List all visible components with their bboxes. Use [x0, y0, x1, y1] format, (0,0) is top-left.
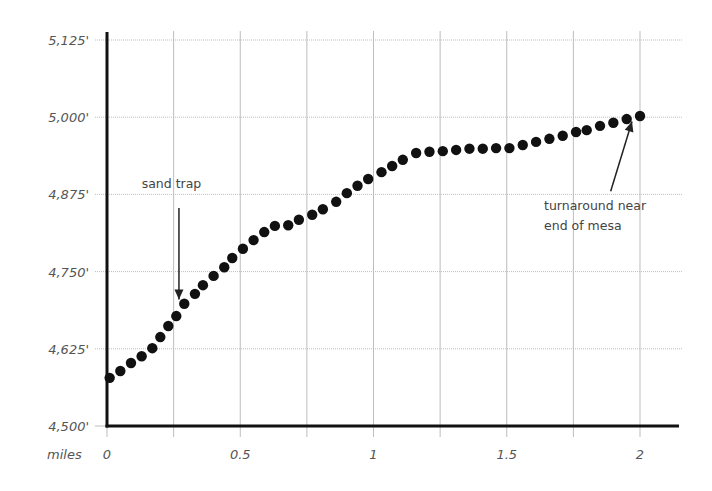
- data-point: [227, 253, 237, 263]
- data-point: [294, 215, 304, 225]
- x-tick-label: 0: [103, 447, 111, 462]
- data-point: [558, 131, 568, 141]
- data-point: [478, 143, 488, 153]
- data-point: [259, 227, 269, 237]
- data-point: [283, 220, 293, 230]
- x-tick-label: 1: [369, 447, 377, 462]
- y-tick-label: 4,625': [48, 342, 89, 357]
- x-tick-label: 1.5: [496, 447, 517, 462]
- x-tick-label: 2: [636, 447, 644, 462]
- y-tick-label: 4,750': [48, 265, 89, 280]
- data-point: [238, 244, 248, 254]
- data-point: [411, 148, 421, 158]
- x-axis-tick-labels: miles 00.511.52: [47, 447, 644, 462]
- data-point: [438, 146, 448, 156]
- data-point: [342, 188, 352, 198]
- data-point: [387, 161, 397, 171]
- y-tick-label: 5,000': [48, 110, 89, 125]
- data-point: [571, 127, 581, 137]
- data-point: [352, 181, 362, 191]
- data-point: [208, 271, 218, 281]
- x-axis-label: miles: [47, 447, 82, 462]
- x-tick-label: 0.5: [230, 447, 251, 462]
- data-point: [163, 321, 173, 331]
- data-point: [376, 167, 386, 177]
- data-series-elevation: [104, 111, 645, 383]
- data-point: [190, 289, 200, 299]
- data-point: [198, 280, 208, 290]
- data-point: [363, 174, 373, 184]
- data-point: [544, 134, 554, 144]
- data-point: [270, 221, 280, 231]
- data-point: [179, 299, 189, 309]
- data-point: [155, 332, 165, 342]
- arrow-head-icon: [174, 289, 183, 299]
- data-point: [531, 137, 541, 147]
- annotation-text: turnaround near: [544, 198, 647, 213]
- y-tick-label: 4,875': [48, 187, 89, 202]
- gridlines: [95, 31, 682, 437]
- data-point: [582, 125, 592, 135]
- data-point: [398, 155, 408, 165]
- data-point: [635, 111, 645, 121]
- data-point: [307, 210, 317, 220]
- annotation-text: sand trap: [142, 176, 202, 191]
- data-point: [595, 121, 605, 131]
- data-point: [171, 311, 181, 321]
- data-point: [504, 143, 514, 153]
- data-point: [451, 145, 461, 155]
- data-point: [104, 373, 114, 383]
- annotation-text: end of mesa: [544, 218, 622, 233]
- data-point: [464, 143, 474, 153]
- data-point: [126, 358, 136, 368]
- data-point: [318, 204, 328, 214]
- data-point: [621, 114, 631, 124]
- y-tick-label: 5,125': [48, 33, 89, 48]
- chart-canvas: 4,500'4,625'4,750'4,875'5,000'5,125' mil…: [0, 0, 712, 491]
- y-tick-label: 4,500': [48, 419, 89, 434]
- elevation-chart: 4,500'4,625'4,750'4,875'5,000'5,125' mil…: [0, 0, 712, 491]
- data-point: [518, 140, 528, 150]
- data-point: [331, 197, 341, 207]
- data-point: [424, 147, 434, 157]
- annotation-arrow: [611, 122, 632, 192]
- data-point: [115, 366, 125, 376]
- data-point: [248, 235, 258, 245]
- data-point: [136, 351, 146, 361]
- y-axis-tick-labels: 4,500'4,625'4,750'4,875'5,000'5,125': [48, 33, 89, 434]
- data-point: [147, 343, 157, 353]
- data-point: [219, 262, 229, 272]
- data-point: [608, 118, 618, 128]
- data-point: [491, 143, 501, 153]
